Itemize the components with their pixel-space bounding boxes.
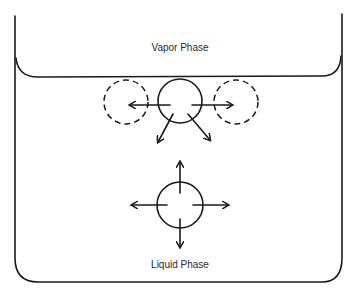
force-arrow-down-right	[188, 114, 210, 140]
liquid-phase-label: Liquid Phase	[151, 259, 209, 270]
surface-molecule	[158, 79, 202, 123]
container-left-wall	[15, 14, 342, 282]
surface-molecule-group	[104, 79, 258, 142]
vapor-liquid-diagram: Vapor Phase Liquid Phase	[0, 0, 364, 295]
vapor-phase-label: Vapor Phase	[151, 42, 209, 53]
bulk-molecule-group	[132, 162, 228, 247]
neighbor-molecule-left	[104, 80, 148, 124]
neighbor-molecule-right	[214, 80, 258, 124]
liquid-surface	[16, 56, 341, 77]
